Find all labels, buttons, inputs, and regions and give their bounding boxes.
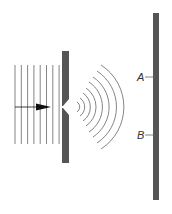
diffracted-circular-waves xyxy=(77,65,124,149)
label-a-text: A xyxy=(136,71,144,83)
propagation-arrow-icon xyxy=(15,104,51,111)
point-label-b: B xyxy=(137,129,153,141)
diffraction-diagram: A B xyxy=(0,0,172,214)
point-label-a: A xyxy=(136,71,153,83)
label-b-text: B xyxy=(137,129,144,141)
detection-screen xyxy=(153,13,159,200)
slit-barrier xyxy=(62,51,69,163)
